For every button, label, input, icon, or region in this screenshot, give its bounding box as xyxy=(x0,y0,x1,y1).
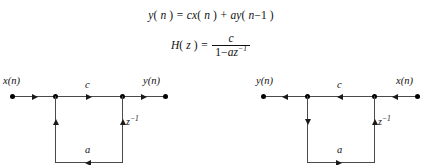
left-diagram-arrow-delay-up xyxy=(120,119,126,125)
left-diagram-arrow-to-output xyxy=(141,94,147,100)
right-diagram-gain-label: c xyxy=(337,79,342,90)
difference-equation: y( n ) = cx( n ) + ay( n−1 ) xyxy=(0,9,422,21)
left-diagram-arrow-gain-branch xyxy=(86,94,92,100)
left-diagram-input-node xyxy=(10,94,15,99)
right-diagram-feedback-label: a xyxy=(337,144,342,155)
transfer-function-equals: = xyxy=(198,39,212,51)
right-diagram-arrow-feedback-down xyxy=(305,119,311,125)
denominator-minus: − xyxy=(221,46,228,58)
left-diagram-feedback-riser xyxy=(55,96,56,162)
transfer-function-equation: H( z ) = c1−az−1 xyxy=(0,33,422,60)
left-diagram-output-label: y(n) xyxy=(143,75,160,86)
left-delay-exponent: −1 xyxy=(130,114,139,123)
right-diagram-arrow-from-input xyxy=(392,94,398,100)
right-diagram-input-node xyxy=(415,94,420,99)
right-diagram-arrow-feedback-right xyxy=(336,160,342,166)
right-diagram-feedback-riser xyxy=(307,96,308,162)
left-diagram-input-label: x(n) xyxy=(3,75,20,86)
left-diagram-delay-riser xyxy=(122,96,123,162)
left-diagram-gain-label: c xyxy=(85,79,90,90)
left-diagram-delay-label: z−1 xyxy=(126,116,139,127)
right-diagram-arrow-gain-branch xyxy=(337,94,343,100)
difference-equation-close-paren-3: ) xyxy=(267,9,274,21)
difference-equation-close-paren-2: ) xyxy=(210,9,217,21)
direct-form-signal-flow-graph: x(n) y(n) c z−1 a xyxy=(0,72,200,165)
left-diagram-output-node xyxy=(163,94,168,99)
left-diagram-arrow-input-to-sum xyxy=(32,94,38,100)
transfer-function-numerator: c xyxy=(212,32,250,44)
right-diagram-output-label: y(n) xyxy=(256,75,273,86)
transfer-function-fraction: c1−az−1 xyxy=(212,32,250,59)
right-delay-exponent: −1 xyxy=(382,114,391,123)
right-diagram-input-label: x(n) xyxy=(396,75,413,86)
left-diagram-arrow-feedback-up xyxy=(53,119,59,125)
transfer-function-denominator: 1−az−1 xyxy=(212,46,250,59)
right-diagram-delay-riser xyxy=(374,96,375,162)
right-diagram-arrow-to-output xyxy=(282,94,288,100)
right-diagram-output-node xyxy=(261,94,266,99)
right-diagram-arrow-delay-up xyxy=(372,119,378,125)
difference-equation-equals: = xyxy=(173,9,187,21)
transfer-function-close-paren: ) xyxy=(191,39,198,51)
right-diagram-delay-label: z−1 xyxy=(378,116,391,127)
figure-root: y( n ) = cx( n ) + ay( n−1 ) H( z ) = c1… xyxy=(0,0,422,165)
transposed-form-signal-flow-graph: y(n) x(n) c z−1 a xyxy=(218,72,422,165)
difference-equation-plus: + xyxy=(217,9,231,21)
left-diagram-feedback-label: a xyxy=(85,144,90,155)
denominator-exponent: −1 xyxy=(238,44,247,53)
left-diagram-arrow-feedback-left xyxy=(85,160,91,166)
difference-equation-minus-one: −1 xyxy=(254,9,266,21)
